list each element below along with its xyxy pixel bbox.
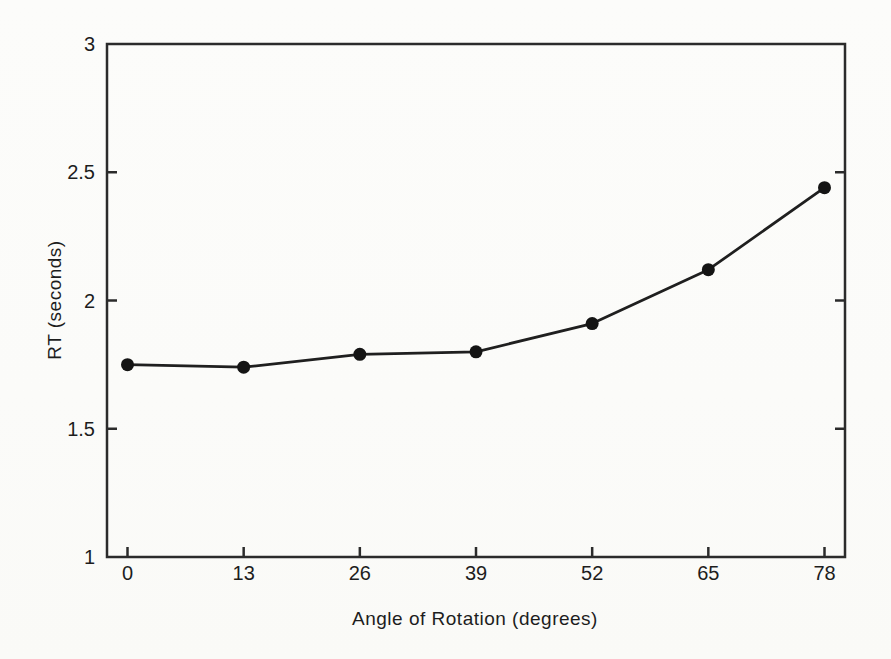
- data-point: [353, 348, 366, 361]
- data-point: [237, 361, 250, 374]
- y-tick-label: 1: [84, 546, 95, 568]
- x-tick-label: 13: [233, 562, 255, 584]
- scanned-figure-page: 11.522.530132639526578 RT (seconds) Angl…: [0, 0, 891, 659]
- data-point: [121, 358, 134, 371]
- y-tick-label: 1.5: [67, 418, 95, 440]
- rt-line-chart: 11.522.530132639526578: [0, 0, 891, 659]
- x-axis-title: Angle of Rotation (degrees): [352, 608, 598, 630]
- x-tick-label: 52: [581, 562, 603, 584]
- y-axis-title: RT (seconds): [44, 240, 66, 359]
- x-tick-label: 78: [813, 562, 835, 584]
- x-tick-label: 26: [349, 562, 371, 584]
- data-point: [702, 263, 715, 276]
- y-tick-label: 2.5: [67, 161, 95, 183]
- plot-box: [107, 44, 845, 557]
- x-tick-label: 39: [465, 562, 487, 584]
- rt-series-line: [128, 188, 825, 368]
- y-tick-label: 2: [84, 290, 95, 312]
- data-point: [586, 317, 599, 330]
- data-point: [818, 181, 831, 194]
- data-point: [470, 345, 483, 358]
- x-tick-label: 0: [122, 562, 133, 584]
- y-tick-label: 3: [84, 33, 95, 55]
- x-tick-label: 65: [697, 562, 719, 584]
